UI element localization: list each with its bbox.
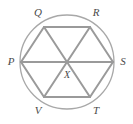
hexagon-diagonals xyxy=(21,27,113,97)
geometry-figure: PQRSTV X xyxy=(0,0,133,124)
center-point-label-x: X xyxy=(63,69,71,80)
vertex-label-p: P xyxy=(7,55,15,67)
hexagon-edge-pq xyxy=(21,27,44,62)
vertex-label-v: V xyxy=(35,104,43,116)
vertex-label-q: Q xyxy=(34,6,42,18)
hexagon-edge-st xyxy=(90,62,113,97)
vertex-label-r: R xyxy=(92,6,100,18)
figure-canvas: PQRSTV X xyxy=(0,0,133,124)
vertex-label-t: T xyxy=(93,104,100,116)
vertex-label-s: S xyxy=(120,55,126,67)
hexagon-edge-vp xyxy=(21,62,44,97)
hexagon-edge-rs xyxy=(90,27,113,62)
